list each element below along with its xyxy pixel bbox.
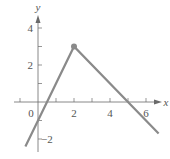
ticks	[20, 28, 146, 139]
y-tick-label: 2	[28, 59, 34, 71]
x-tick-label: 0	[28, 107, 34, 119]
x-tick-label: 2	[71, 107, 77, 119]
y-axis-arrow-icon	[36, 15, 41, 23]
y-axis-label: y	[35, 1, 41, 13]
x-tick-label: 4	[107, 107, 113, 119]
chart: 024642−2xy	[0, 0, 170, 159]
x-axis-label: x	[163, 96, 169, 108]
peak-point-marker	[71, 44, 77, 50]
x-axis-arrow-icon	[154, 100, 162, 105]
y-tick-label: 4	[28, 22, 34, 34]
y-tick-label: −2	[41, 133, 53, 145]
series-line	[25, 47, 158, 147]
axes	[14, 15, 162, 152]
data-series	[25, 44, 158, 147]
